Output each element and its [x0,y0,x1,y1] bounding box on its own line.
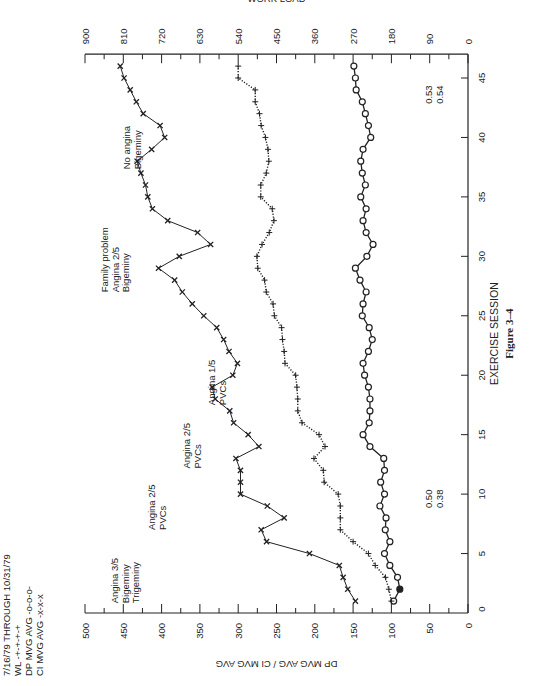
annotation-text: 0.53 [423,85,434,104]
circle-marker-icon [362,372,368,378]
x-marker-icon [337,563,342,568]
plus-marker-icon [258,123,264,129]
x-marker-icon [121,75,126,80]
series-line [354,66,400,601]
plus-marker-icon [337,515,343,521]
plus-marker-icon [386,586,392,592]
y-right-tick-label: 900 [80,28,91,44]
plus-marker-icon [235,63,241,69]
circle-marker-icon [397,586,403,592]
circle-marker-icon [364,253,370,259]
circle-marker-icon [358,158,364,164]
circle-marker-icon [367,444,373,450]
x-marker-icon [282,515,287,520]
circle-marker-icon [362,111,368,117]
x-marker-icon [150,206,155,211]
plus-marker-icon [262,277,268,283]
plus-marker-icon [382,574,388,580]
y-right-tick-label: 90 [424,34,435,45]
y-right-tick-label: 270 [348,28,359,44]
series-line [238,66,391,601]
y-right-tick-label: 810 [118,28,129,44]
plus-marker-icon [262,134,268,140]
annotation-text: 0.50 [423,490,434,509]
annotation-text: Trigeminy [130,562,141,604]
legend: 7/16/79 THROUGH 10/31/79WL -+-+-+-+DP MV… [1,554,45,676]
circle-marker-icon [366,420,372,426]
x-marker-icon [118,64,123,69]
plus-marker-icon [256,111,262,117]
x-marker-icon [246,432,251,437]
x-marker-icon [233,456,238,461]
y-right-tick-label: 450 [271,28,282,44]
x-tick-label: 10 [476,489,487,500]
x-tick-label: 30 [476,251,487,262]
annotation-text: Angina 3/5 [109,558,120,603]
x-marker-icon [157,123,162,128]
x-marker-icon [134,99,139,104]
plus-marker-icon [271,218,277,224]
x-marker-icon [128,87,133,92]
y-right-tick-label: 180 [386,28,397,44]
plus-marker-icon [281,348,287,354]
circle-marker-icon [377,503,383,509]
y-left-tick-label: 50 [424,623,435,634]
x-marker-icon [226,349,231,354]
circle-marker-icon [367,396,373,402]
figure-caption: Figure 3–4 [503,308,515,359]
circle-marker-icon [360,301,366,307]
y-left-tick-label: 0 [463,623,474,628]
plus-marker-icon [235,75,241,81]
circle-marker-icon [395,574,401,580]
circle-marker-icon [378,479,384,485]
annotation-text: Bigeminy [120,564,131,603]
annotation-text: 0.38 [434,490,445,509]
x-marker-icon [235,361,240,366]
plus-marker-icon [263,170,269,176]
x-marker-icon [259,527,264,532]
plus-marker-icon [265,146,271,152]
x-marker-icon [177,254,182,259]
annotation-text: PVCs [217,381,228,406]
legend-date-range: 7/16/79 THROUGH 10/31/79 [1,554,12,676]
circle-marker-icon [363,206,369,212]
x-marker-icon [190,301,195,306]
circle-marker-icon [360,432,366,438]
circle-marker-icon [359,99,365,105]
y-left-axis-title: DP MVG AVG / CI MVG AVG [216,659,338,670]
x-tick-label: 40 [476,132,487,143]
circle-marker-icon [383,515,389,521]
circle-marker-icon [382,491,388,497]
plus-marker-icon [293,372,299,378]
x-marker-icon [227,408,232,413]
plus-marker-icon [254,253,260,259]
x-marker-icon [353,599,358,604]
y-right-tick-label: 630 [194,28,205,44]
x-tick-label: 20 [476,370,487,381]
y-left-tick-label: 500 [80,623,91,639]
x-marker-icon [141,111,146,116]
plus-marker-icon [294,384,300,390]
annotation-text: Bigeminy [120,253,131,292]
series-dp-mvg-avg [351,63,403,604]
x-marker-icon [162,135,167,140]
circle-marker-icon [357,277,363,283]
rotated-figure: 050100150200250300350400450500DP MVG AVG… [0,0,538,686]
circle-marker-icon [358,194,364,200]
y-right-tick-label: 720 [156,28,167,44]
plus-marker-icon [337,503,343,509]
x-marker-icon [195,230,200,235]
circle-marker-icon [359,313,365,319]
plus-marker-icon [252,99,258,105]
plus-marker-icon [258,182,264,188]
y-right-tick-label: 0 [463,39,474,44]
y-left-tick-label: 150 [348,623,359,639]
x-tick-label: 45 [476,73,487,84]
x-marker-icon [265,503,270,508]
plus-marker-icon [270,301,276,307]
plus-marker-icon [259,241,265,247]
plus-marker-icon [271,313,277,319]
circle-marker-icon [382,551,388,557]
legend-wl: WL -+-+-+-+ [12,624,23,676]
circle-marker-icon [365,384,371,390]
